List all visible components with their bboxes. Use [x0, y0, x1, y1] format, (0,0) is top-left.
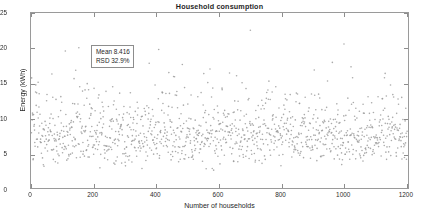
x-tick-label: 400 — [135, 191, 175, 198]
x-tick-mark — [31, 13, 32, 17]
scatter-plot-canvas — [31, 13, 409, 189]
y-tick-mark — [31, 119, 35, 120]
x-tick-mark — [219, 13, 220, 17]
x-tick-mark — [156, 184, 157, 188]
stats-annotation-box: Mean 8.416 RSD 32.9% — [91, 45, 134, 68]
y-tick-mark — [404, 84, 408, 85]
y-tick-label: 25 — [0, 9, 7, 16]
x-tick-label: 1000 — [323, 191, 363, 198]
x-tick-label: 800 — [261, 191, 301, 198]
y-tick-label: 10 — [0, 115, 7, 122]
page-title: Household consumption — [30, 2, 409, 11]
x-tick-mark — [282, 184, 283, 188]
y-tick-mark — [404, 155, 408, 156]
x-tick-mark — [94, 184, 95, 188]
y-tick-mark — [404, 119, 408, 120]
y-tick-mark — [404, 48, 408, 49]
x-axis-title: Number of households — [30, 202, 409, 210]
y-tick-label: 20 — [0, 44, 7, 51]
plot-area: Mean 8.416 RSD 32.9% — [30, 12, 409, 189]
x-tick-label: 600 — [198, 191, 238, 198]
x-tick-mark — [344, 13, 345, 17]
x-tick-label: 200 — [73, 191, 113, 198]
y-tick-label: 5 — [0, 150, 7, 157]
x-tick-mark — [407, 13, 408, 17]
y-tick-mark — [31, 48, 35, 49]
x-tick-mark — [156, 13, 157, 17]
y-tick-label: 15 — [0, 79, 7, 86]
y-tick-label: 0 — [0, 186, 7, 193]
x-tick-mark — [219, 184, 220, 188]
x-tick-mark — [31, 184, 32, 188]
figure-canvas: Household consumption Mean 8.416 RSD 32.… — [0, 0, 422, 219]
x-tick-mark — [344, 184, 345, 188]
x-tick-label: 0 — [10, 191, 50, 198]
y-axis-title: Energy (kWh) — [19, 30, 27, 150]
stats-rsd-text: RSD 32.9% — [96, 57, 130, 66]
x-tick-mark — [282, 13, 283, 17]
y-tick-mark — [31, 155, 35, 156]
x-tick-mark — [407, 184, 408, 188]
y-tick-mark — [31, 84, 35, 85]
stats-mean-text: Mean 8.416 — [96, 48, 130, 57]
x-tick-label: 1200 — [386, 191, 422, 198]
x-tick-mark — [94, 13, 95, 17]
